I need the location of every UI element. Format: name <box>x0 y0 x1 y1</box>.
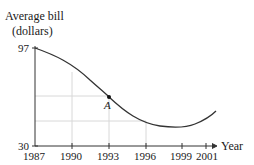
guide-lines <box>35 72 146 146</box>
y-tick-97: 97 <box>18 42 30 54</box>
data-curve <box>35 48 216 127</box>
y-axis-label-line2: (dollars) <box>12 24 53 38</box>
point-a-label: A <box>103 99 111 111</box>
x-tick-1999: 1999 <box>170 150 193 162</box>
x-tick-1996: 1996 <box>134 150 157 162</box>
x-tick-2001: 2001 <box>196 150 218 162</box>
y-axis-label-line1: Average bill <box>5 9 64 23</box>
x-axis-label: Year <box>221 139 243 153</box>
line-chart: Average bill (dollars) 97 30 1987 1990 1… <box>0 0 254 165</box>
x-tick-1993: 1993 <box>97 150 120 162</box>
axes <box>32 46 217 149</box>
x-tick-1990: 1990 <box>60 150 83 162</box>
x-tick-1987: 1987 <box>23 150 46 162</box>
